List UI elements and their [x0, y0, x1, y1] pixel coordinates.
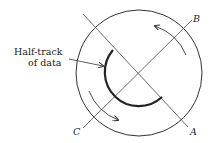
axis-line-a	[83, 14, 188, 127]
disk-diagram: Half-track of data B A C	[0, 0, 213, 143]
annotation-line2: of data	[28, 57, 62, 68]
label-c: C	[73, 126, 81, 137]
axis-line-b-c	[83, 20, 192, 128]
label-b: B	[192, 13, 200, 24]
annotation-leader	[69, 59, 103, 66]
label-a: A	[189, 126, 197, 137]
annotation-line1: Half-track	[14, 46, 63, 57]
